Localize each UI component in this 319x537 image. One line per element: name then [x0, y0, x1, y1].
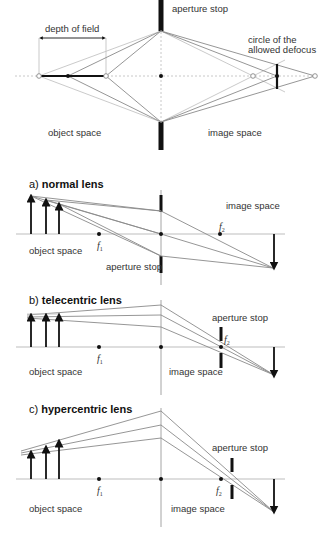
near-point: [37, 74, 42, 79]
f2-label: f2: [219, 221, 225, 233]
far-point: [104, 74, 109, 79]
depth-of-field-diagram: aperture stop depth of field: [15, 0, 318, 150]
object-space-label: object space: [29, 503, 82, 514]
image-space-label: image space: [171, 503, 225, 514]
object-space-label: object space: [29, 366, 82, 377]
depth-of-field-label: depth of field: [45, 23, 99, 34]
image-far-point: [251, 74, 256, 79]
image-space-label: image space: [208, 127, 262, 138]
hypercentric-lens-title: c) hypercentric lens: [29, 403, 132, 415]
image-space-label: image space: [169, 366, 223, 377]
object-space-label: object space: [29, 245, 82, 256]
aperture-stop-label: aperture stop: [106, 261, 162, 272]
focus-point: [66, 74, 70, 78]
hypercentric-lens-diagram: c) hypercentric lens f1 f2 aperture stop…: [16, 403, 285, 527]
image-near-point: [313, 74, 318, 79]
focal-point-1: [97, 232, 101, 236]
lens-center: [159, 345, 163, 349]
focal-point-2: [219, 477, 223, 481]
focal-point-1: [97, 477, 101, 481]
lens-center: [159, 477, 163, 481]
lens-center: [159, 232, 163, 236]
lens-center: [159, 74, 163, 78]
ray: [39, 76, 161, 122]
f1-label: f1: [97, 240, 103, 252]
telecentric-lens-title: b) telecentric lens: [29, 294, 122, 306]
f2-label: f2: [216, 485, 222, 497]
object-space-label: object space: [48, 127, 101, 138]
ray: [161, 76, 277, 122]
telecentric-lens-diagram: b) telecentric lens f1 f2 aperture stop …: [16, 294, 285, 395]
aperture-stop-label: aperture stop: [172, 3, 228, 14]
defocus-label-line2: allowed defocus: [248, 44, 316, 55]
aperture-stop-label: aperture stop: [212, 442, 268, 453]
image-space-label: image space: [226, 200, 280, 211]
normal-lens-diagram: a) normal lens f1 f2 image space object …: [16, 178, 285, 285]
ray: [161, 76, 315, 122]
focal-point-1: [97, 345, 101, 349]
normal-lens-title: a) normal lens: [29, 178, 104, 190]
f2-label: f2: [224, 334, 230, 346]
f1-label: f1: [97, 485, 103, 497]
focal-point-2: [219, 345, 223, 349]
optics-diagram: aperture stop depth of field: [0, 0, 319, 537]
aperture-stop-label: aperture stop: [212, 312, 268, 323]
f1-label: f1: [97, 353, 103, 365]
